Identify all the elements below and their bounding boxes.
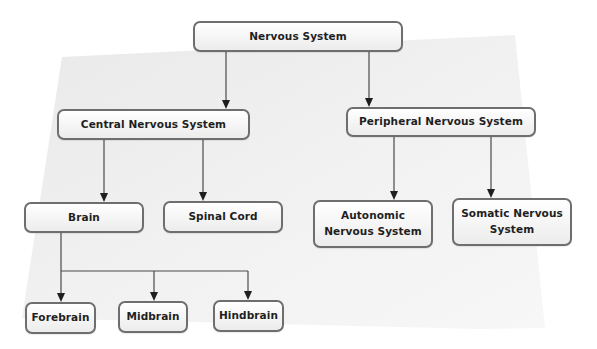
node-label: Peripheral Nervous System (359, 114, 523, 130)
node-central-nervous-system: Central Nervous System (57, 109, 250, 140)
arrowhead-icon (365, 98, 373, 107)
node-label: Spinal Cord (188, 209, 257, 225)
arrowhead-icon (199, 192, 207, 201)
arrowhead-icon (244, 291, 252, 300)
arrowhead-icon (100, 193, 108, 202)
node-midbrain: Midbrain (118, 301, 188, 333)
node-label-line1: Somatic Nervous (461, 206, 563, 222)
node-brain: Brain (24, 202, 144, 233)
connector-lines (0, 0, 597, 349)
node-forebrain: Forebrain (25, 302, 96, 334)
node-nervous-system: Nervous System (193, 21, 403, 52)
node-label: Hindbrain (219, 308, 278, 324)
node-peripheral-nervous-system: Peripheral Nervous System (346, 107, 536, 137)
node-label: Brain (68, 210, 100, 226)
arrowhead-icon (57, 293, 65, 302)
nervous-system-diagram: Nervous System Central Nervous System Pe… (0, 0, 597, 349)
arrowhead-icon (390, 191, 398, 200)
node-label-line1: Autonomic (341, 208, 405, 224)
node-label: Forebrain (31, 310, 89, 326)
node-spinal-cord: Spinal Cord (163, 201, 283, 233)
arrowhead-icon (487, 189, 495, 198)
node-hindbrain: Hindbrain (213, 300, 284, 332)
node-somatic-nervous-system: Somatic Nervous System (452, 198, 572, 246)
node-label: Central Nervous System (81, 117, 226, 133)
arrowhead-icon (150, 292, 158, 301)
node-autonomic-nervous-system: Autonomic Nervous System (313, 200, 433, 248)
node-label: Nervous System (249, 29, 347, 45)
node-label: Midbrain (126, 309, 179, 325)
arrowhead-icon (222, 100, 230, 109)
node-label-line2: System (490, 222, 534, 238)
node-label-line2: Nervous System (324, 224, 422, 240)
